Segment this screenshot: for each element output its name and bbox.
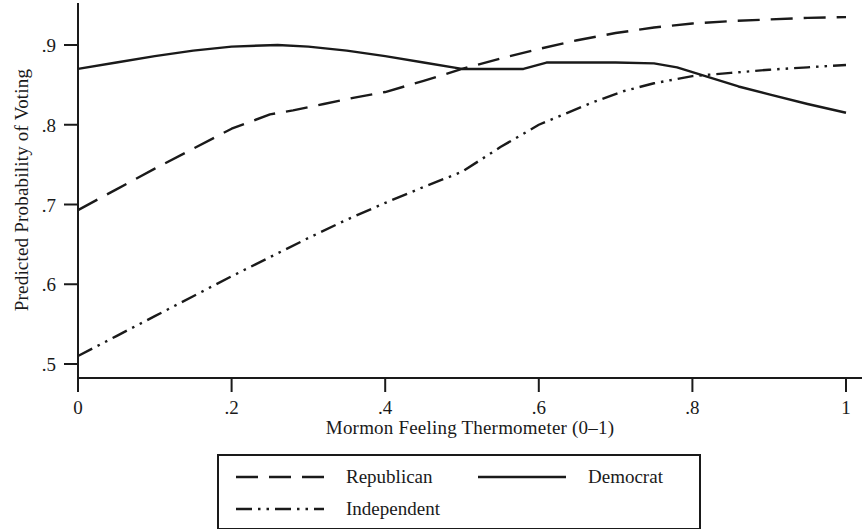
- x-tick-label: .4: [378, 397, 393, 418]
- x-tick-label: .2: [224, 397, 238, 418]
- axes-group: [64, 3, 862, 392]
- y-tick-label: .6: [42, 274, 56, 295]
- x-tick-label: .8: [685, 397, 699, 418]
- series-lines-group: [78, 17, 846, 356]
- y-axis-tick-labels: .5.6.7.8.9: [42, 35, 56, 375]
- legend-label-republican: Republican: [346, 466, 433, 487]
- y-tick-label: .9: [42, 35, 56, 56]
- x-axis-ticks: [78, 378, 846, 392]
- y-tick-label: .8: [42, 115, 56, 136]
- x-tick-label: .6: [532, 397, 546, 418]
- x-axis-title: Mormon Feeling Thermometer (0–1): [326, 417, 614, 439]
- y-tick-label: .5: [42, 354, 56, 375]
- series-line-independent: [78, 65, 846, 356]
- x-tick-label: 1: [841, 397, 851, 418]
- y-axis-title: Predicted Probability of Voting: [11, 68, 32, 311]
- legend-label-independent: Independent: [346, 498, 441, 519]
- y-axis-ticks: [64, 45, 78, 364]
- x-tick-label: 0: [73, 397, 83, 418]
- legend-label-democrat: Democrat: [588, 466, 664, 487]
- series-line-democrat: [78, 45, 846, 113]
- y-tick-label: .7: [42, 195, 56, 216]
- x-axis-tick-labels: 0.2.4.6.81: [73, 397, 851, 418]
- series-line-republican: [78, 17, 846, 210]
- figure-container: .5.6.7.8.9 0.2.4.6.81 Predicted Probabil…: [0, 0, 868, 529]
- legend-entries: RepublicanDemocratIndependent: [236, 466, 664, 519]
- predicted-probability-line-chart: .5.6.7.8.9 0.2.4.6.81 Predicted Probabil…: [0, 0, 868, 529]
- legend: RepublicanDemocratIndependent: [218, 455, 700, 529]
